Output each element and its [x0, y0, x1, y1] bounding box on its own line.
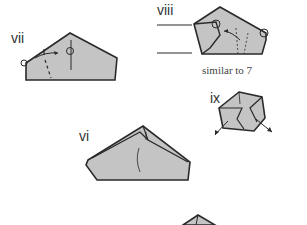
step-label-viii: viii [157, 2, 173, 18]
step-label-vi: vi [79, 128, 89, 144]
partial-next-model [183, 215, 215, 225]
diagram-canvas [0, 0, 307, 225]
step-label-ix: ix [210, 90, 220, 106]
step-viii-model [157, 7, 268, 54]
step-note-viii: similar to 7 [202, 64, 252, 76]
step-label-vii: vii [11, 30, 24, 46]
step-ix-model [215, 92, 272, 135]
step-vii-model [21, 33, 117, 80]
step-vi-model [86, 126, 190, 180]
